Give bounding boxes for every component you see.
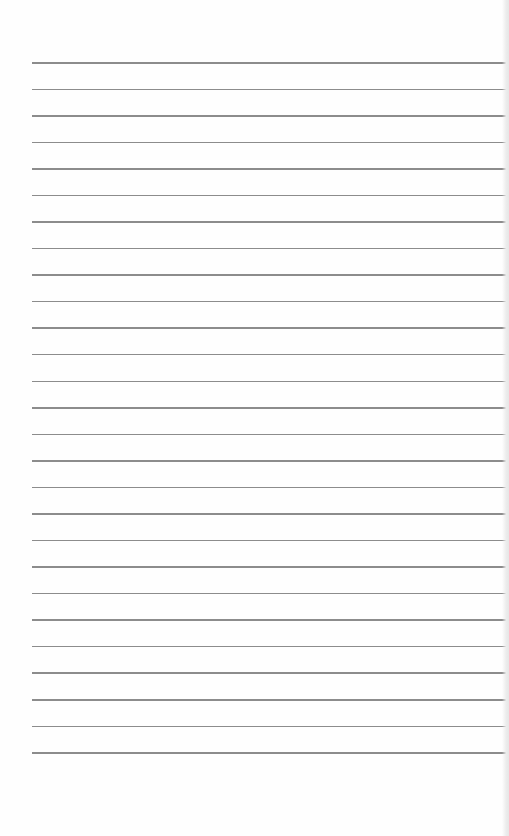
ruled-line xyxy=(32,726,506,728)
ruled-line xyxy=(32,752,506,754)
ruled-line xyxy=(32,248,506,250)
ruled-line xyxy=(32,274,506,276)
page-edge-shadow xyxy=(502,0,509,836)
ruled-line xyxy=(32,646,506,648)
ruled-line xyxy=(32,513,506,515)
ruled-line xyxy=(32,566,506,568)
ruled-line xyxy=(32,593,506,595)
ruled-line xyxy=(32,89,506,91)
ruled-line xyxy=(32,327,506,329)
ruled-line xyxy=(32,540,506,542)
ruled-line xyxy=(32,487,506,489)
ruled-line xyxy=(32,115,506,117)
lined-paper-page xyxy=(0,0,509,836)
ruled-line xyxy=(32,699,506,701)
ruled-line xyxy=(32,407,506,409)
ruled-line xyxy=(32,434,506,436)
ruled-line xyxy=(32,460,506,462)
ruled-line xyxy=(32,195,506,197)
ruled-line xyxy=(32,62,506,64)
ruled-line xyxy=(32,672,506,674)
ruled-line xyxy=(32,619,506,621)
ruled-line xyxy=(32,142,506,144)
ruled-line xyxy=(32,221,506,223)
ruled-line xyxy=(32,301,506,303)
ruled-line xyxy=(32,168,506,170)
ruled-line xyxy=(32,354,506,356)
ruled-line xyxy=(32,381,506,383)
